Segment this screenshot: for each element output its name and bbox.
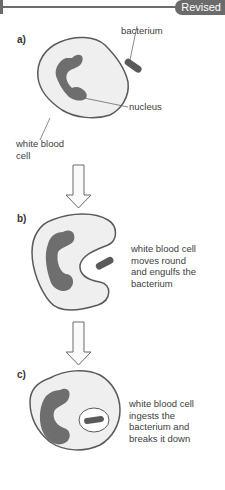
panel-b-cell: [32, 214, 116, 310]
step-c-caption: white blood cell ingests the bacterium a…: [129, 398, 194, 444]
white-blood-cell-label: white blood cell: [16, 138, 64, 161]
bacterium-label: bacterium: [121, 25, 163, 37]
arrow-down-icon: [66, 165, 91, 208]
arrow-down-icon: [66, 322, 91, 365]
panel-c-cell: [30, 371, 120, 450]
step-b-label: b): [17, 213, 26, 224]
bacterium-a: [123, 57, 143, 74]
nucleus-label: nucleus: [129, 101, 162, 113]
step-c-label: c): [17, 369, 26, 380]
bacterium-b: [95, 256, 115, 271]
panel-a-cell: [38, 26, 143, 140]
step-b-caption: white blood cell moves round and engulfs…: [131, 243, 196, 289]
step-a-label: a): [17, 34, 26, 45]
